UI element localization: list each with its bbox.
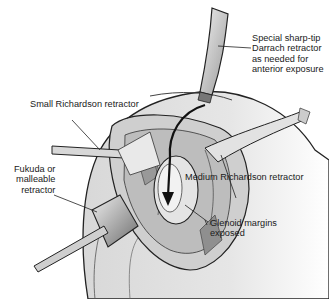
label-glenoid: Glenoid margins exposed [210,218,277,239]
label-small-richardson: Small Richardson retractor [30,99,139,109]
label-medium-richardson: Medium Richardson retractor [185,172,303,182]
surgical-illustration: Special sharp-tip Darrach retractor as n… [0,0,329,299]
label-fukuda: Fukuda or malleable retractor [14,164,55,195]
darrach-retractor [200,8,228,95]
label-darrach-retractor: Special sharp-tip Darrach retractor as n… [252,33,324,75]
